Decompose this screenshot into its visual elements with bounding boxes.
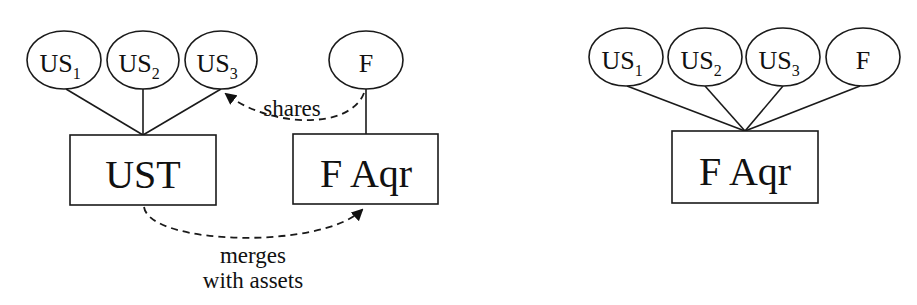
merges-arrow <box>144 207 362 238</box>
node-us1: US1 <box>27 31 101 89</box>
node-us2-subscript: 2 <box>152 65 160 82</box>
node-us3-label: US <box>196 49 229 78</box>
box-f-aqr-right-label: F Aqr <box>699 149 791 194</box>
node-f-label: F <box>359 49 373 78</box>
node-us2-label: US <box>118 49 151 78</box>
node-r-us3: US3 <box>746 28 820 86</box>
node-us3: US3 <box>185 31 257 89</box>
box-f-aqr-left: F Aqr <box>293 134 438 204</box>
node-f: F <box>329 31 403 89</box>
edge-us3-ust <box>143 89 221 135</box>
node-us1-subscript: 1 <box>73 65 81 82</box>
node-r-us3-label: US <box>758 46 791 75</box>
box-ust-label: UST <box>105 152 181 197</box>
left-diagram: US1 US2 US3 F UST F Aqr shares merges wi <box>27 31 438 293</box>
box-ust: UST <box>70 135 216 205</box>
node-us3-subscript: 3 <box>230 65 238 82</box>
node-r-f-label: F <box>856 46 870 75</box>
node-r-f: F <box>826 28 900 86</box>
merger-diagram: US1 US2 US3 F UST F Aqr shares merges wi <box>0 0 917 305</box>
node-r-us3-subscript: 3 <box>792 62 800 79</box>
edge-r-us1-faqr <box>627 86 745 131</box>
node-r-us2-label: US <box>680 46 713 75</box>
node-r-us1-subscript: 1 <box>635 62 643 79</box>
node-r-us1-label: US <box>601 46 634 75</box>
edge-r-us2-faqr <box>705 86 745 131</box>
shares-label: shares <box>263 96 321 121</box>
node-us1-label: US <box>39 49 72 78</box>
merges-label-line2: with assets <box>203 268 303 293</box>
node-r-us2-subscript: 2 <box>714 62 722 79</box>
merges-label-line1: merges <box>220 243 286 268</box>
edge-us1-ust <box>66 89 143 135</box>
node-r-us1: US1 <box>589 28 663 86</box>
edge-r-f-faqr <box>745 86 860 131</box>
right-diagram: US1 US2 US3 F F Aqr <box>589 28 900 203</box>
node-r-us2: US2 <box>668 28 742 86</box>
node-us2: US2 <box>107 31 179 89</box>
box-f-aqr-right: F Aqr <box>672 131 818 203</box>
box-f-aqr-left-label: F Aqr <box>320 151 412 196</box>
